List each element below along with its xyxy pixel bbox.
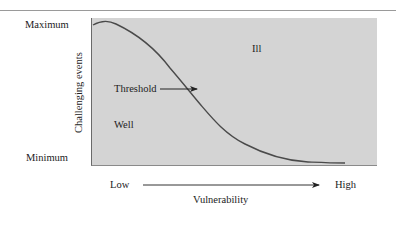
y-min-label: Minimum <box>26 153 68 164</box>
y-max-label: Maximum <box>25 20 69 31</box>
region-well-label: Well <box>114 120 134 131</box>
x-high-label: High <box>335 180 356 191</box>
region-ill-label: Ill <box>252 44 261 55</box>
threshold-label: Threshold <box>114 84 157 95</box>
x-low-label: Low <box>110 180 129 191</box>
y-axis-label: Challenging events <box>74 52 85 133</box>
x-axis-label: Vulnerability <box>193 195 248 206</box>
